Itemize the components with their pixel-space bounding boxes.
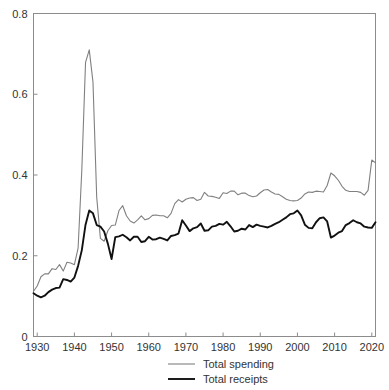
x-tick-label: 1980 (211, 341, 235, 353)
axes-frame (34, 14, 376, 337)
y-tick-label: 0 (21, 331, 27, 343)
x-axis-tick-labels: 1930194019501960197019801990200020102020 (25, 341, 384, 353)
x-tick-label: 1990 (248, 341, 272, 353)
y-tick-label: 0.6 (12, 88, 27, 100)
series-line-total-receipts (34, 211, 376, 298)
line-chart: 1930194019501960197019801990200020102020… (0, 0, 389, 390)
y-tick-label: 0.2 (12, 250, 27, 262)
y-axis-tick-labels: 00.20.40.60.8 (12, 8, 27, 343)
x-axis-ticks (37, 333, 372, 337)
x-tick-label: 1950 (99, 341, 123, 353)
y-tick-label: 0.4 (12, 169, 27, 181)
chart-figure: 1930194019501960197019801990200020102020… (0, 0, 389, 390)
x-tick-label: 1940 (62, 341, 86, 353)
x-tick-label: 2010 (322, 341, 346, 353)
x-tick-label: 1960 (136, 341, 160, 353)
legend-label-1: Total receipts (203, 373, 268, 385)
x-tick-label: 2020 (360, 341, 384, 353)
y-tick-label: 0.8 (12, 8, 27, 20)
x-tick-label: 1930 (25, 341, 49, 353)
legend-label-0: Total spending (203, 358, 274, 370)
chart-legend: Total spendingTotal receipts (168, 358, 274, 385)
series-line-total-spending (34, 50, 376, 291)
series-lines (34, 50, 376, 298)
x-tick-label: 1970 (174, 341, 198, 353)
x-tick-label: 2000 (285, 341, 309, 353)
